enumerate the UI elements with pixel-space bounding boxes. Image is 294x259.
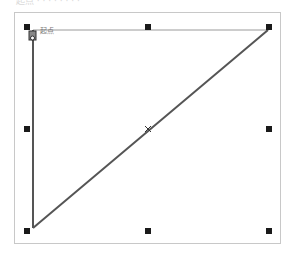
resize-handle-bottom-right[interactable] [266, 228, 272, 234]
resize-handle-bottom-center[interactable] [145, 228, 151, 234]
connector-start-icon[interactable] [29, 31, 36, 40]
resize-handle-middle-right[interactable] [266, 126, 272, 132]
resize-handle-bottom-left[interactable] [24, 228, 30, 234]
start-point-label: 起点 [40, 25, 54, 35]
resize-handle-top-left[interactable] [24, 24, 30, 30]
drawing-canvas[interactable] [0, 0, 294, 259]
diagonal-edge-line[interactable] [33, 30, 268, 228]
resize-handle-top-center[interactable] [145, 24, 151, 30]
resize-handle-top-right[interactable] [266, 24, 272, 30]
resize-handle-middle-left[interactable] [24, 126, 30, 132]
